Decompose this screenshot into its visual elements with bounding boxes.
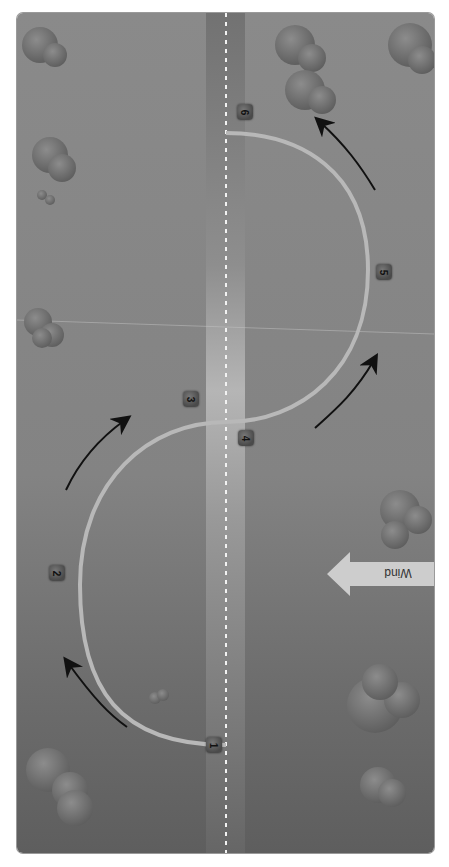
direction-arrow-icon (320, 122, 375, 190)
waypoint-marker-3: 3 (183, 391, 199, 407)
waypoint-marker-5: 5 (376, 264, 392, 280)
wind-label: Wind (372, 566, 424, 580)
direction-arrow-icon (315, 360, 374, 428)
waypoint-marker-2: 2 (49, 565, 65, 581)
diagram-scene (0, 0, 449, 867)
direction-arrow-icon (66, 420, 125, 490)
waypoint-marker-6: 6 (237, 104, 253, 120)
waypoint-marker-4: 4 (238, 430, 254, 446)
waypoint-marker-1: 1 (206, 737, 222, 753)
direction-arrow-icon (68, 663, 127, 727)
